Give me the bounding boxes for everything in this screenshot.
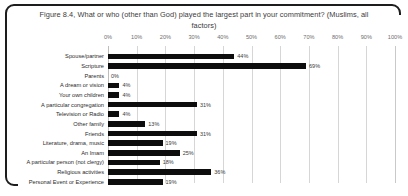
bar bbox=[108, 169, 211, 175]
x-tick-label: 100% bbox=[388, 34, 402, 40]
category-label: Literature, drama, music bbox=[43, 139, 104, 147]
bar-value-label: 4% bbox=[122, 81, 130, 89]
category-label: Religious activities bbox=[57, 168, 104, 176]
x-tick-label: 60% bbox=[275, 34, 286, 40]
bar-value-label: 0% bbox=[111, 72, 119, 80]
bar bbox=[108, 121, 145, 127]
bar bbox=[108, 54, 234, 60]
bar-value-label: 31% bbox=[200, 130, 211, 138]
x-tick-label: 10% bbox=[131, 34, 142, 40]
bar-value-label: 4% bbox=[122, 91, 130, 99]
bar-value-label: 31% bbox=[200, 101, 211, 109]
x-tick-label: 90% bbox=[361, 34, 372, 40]
bar bbox=[108, 83, 119, 89]
x-tick-label: 0% bbox=[104, 34, 112, 40]
bar-row: Other family13% bbox=[108, 119, 395, 128]
bar-row: Friends31% bbox=[108, 129, 395, 138]
category-label: Personal Event or Experience bbox=[29, 178, 104, 186]
bar bbox=[108, 140, 163, 146]
bar-value-label: 13% bbox=[148, 120, 159, 128]
bar-value-label: 19% bbox=[166, 178, 177, 186]
bar-row: Parents0% bbox=[108, 71, 395, 80]
x-tick-label: 80% bbox=[332, 34, 343, 40]
bar-row: Literature, drama, music19% bbox=[108, 139, 395, 148]
bar-value-label: 4% bbox=[122, 110, 130, 118]
x-tick-label: 50% bbox=[246, 34, 257, 40]
category-label: Scripture bbox=[81, 62, 104, 70]
plot-area: 0%10%20%30%40%50%60%70%80%90%100% Spouse… bbox=[108, 46, 395, 183]
bar-value-label: 69% bbox=[309, 62, 320, 70]
bar bbox=[108, 63, 306, 69]
category-label: Spouse/partner bbox=[65, 52, 104, 60]
bar-row: Religious activities36% bbox=[108, 168, 395, 177]
bar-row: A particular person (not clergy)18% bbox=[108, 158, 395, 167]
category-label: An Imam bbox=[81, 149, 104, 157]
bar bbox=[108, 160, 160, 166]
category-label: Parents bbox=[84, 72, 104, 80]
category-label: Your own children bbox=[59, 91, 104, 99]
bar-row: Your own children4% bbox=[108, 91, 395, 100]
category-label: Other family bbox=[73, 120, 104, 128]
chart-title: Figure 8.4, What or who (other than God)… bbox=[34, 10, 374, 31]
category-label: Television or Radio bbox=[56, 110, 104, 118]
bar-value-label: 19% bbox=[166, 139, 177, 147]
category-label: A particular person (not clergy) bbox=[27, 158, 104, 166]
bar bbox=[108, 150, 180, 156]
bar bbox=[108, 179, 163, 185]
category-label: Friends bbox=[85, 130, 104, 138]
bar bbox=[108, 111, 119, 117]
x-tick-label: 70% bbox=[303, 34, 314, 40]
category-label: A dream or vision bbox=[60, 81, 104, 89]
bar bbox=[108, 131, 197, 137]
bar bbox=[108, 102, 197, 108]
gridline-100 bbox=[395, 46, 396, 183]
x-tick-label: 20% bbox=[160, 34, 171, 40]
bar-row: Scripture69% bbox=[108, 62, 395, 71]
bar-row: A dream or vision4% bbox=[108, 81, 395, 90]
bar-row: Television or Radio4% bbox=[108, 110, 395, 119]
bar bbox=[108, 92, 119, 98]
bar-row: Spouse/partner44% bbox=[108, 52, 395, 61]
bar-value-label: 44% bbox=[237, 52, 248, 60]
category-label: A particular congregation bbox=[41, 101, 104, 109]
bar-value-label: 25% bbox=[183, 149, 194, 157]
bar-row: Personal Event or Experience19% bbox=[108, 177, 395, 186]
x-tick-label: 40% bbox=[217, 34, 228, 40]
bar-value-label: 36% bbox=[214, 168, 225, 176]
bar-row: An Imam25% bbox=[108, 148, 395, 157]
bar-series: Spouse/partner44%Scripture69%Parents0%A … bbox=[108, 52, 395, 187]
bar-row: A particular congregation31% bbox=[108, 100, 395, 109]
x-tick-label: 30% bbox=[188, 34, 199, 40]
bar-value-label: 18% bbox=[163, 158, 174, 166]
